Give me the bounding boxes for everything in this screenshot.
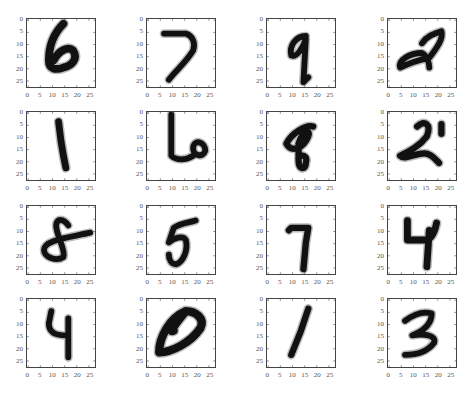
y-tick-label: 15 (129, 146, 143, 153)
x-tick-label: 25 (445, 185, 457, 192)
x-tick-label: 10 (46, 372, 58, 379)
y-tick-label: 20 (9, 253, 23, 260)
digit-image (266, 205, 336, 275)
digit-panel: 00551010151520202525 (266, 111, 366, 203)
x-tick-label: 5 (395, 372, 407, 379)
y-tick-label: 0 (129, 203, 143, 210)
x-tick-label: 10 (407, 372, 419, 379)
x-tick-label: 15 (420, 185, 432, 192)
y-tick-label: 25 (249, 78, 263, 85)
x-tick-label: 0 (261, 279, 273, 286)
x-tick-label: 15 (299, 185, 311, 192)
x-tick-label: 15 (299, 279, 311, 286)
x-tick-label: 25 (84, 92, 96, 99)
x-tick-label: 10 (407, 279, 419, 286)
y-tick-label: 25 (249, 171, 263, 178)
y-tick-label: 0 (9, 296, 23, 303)
y-tick-label: 5 (370, 308, 384, 315)
x-tick-label: 5 (395, 279, 407, 286)
x-tick-label: 20 (191, 92, 203, 99)
y-tick-label: 10 (370, 228, 384, 235)
x-tick-label: 10 (46, 185, 58, 192)
x-tick-label: 20 (311, 279, 323, 286)
y-tick-label: 20 (370, 253, 384, 260)
y-tick-label: 5 (9, 121, 23, 128)
x-tick-label: 5 (34, 279, 46, 286)
x-tick-label: 5 (154, 279, 166, 286)
x-tick-label: 15 (299, 372, 311, 379)
y-tick-label: 20 (249, 253, 263, 260)
y-tick-label: 25 (9, 358, 23, 365)
x-tick-label: 15 (179, 279, 191, 286)
x-tick-label: 20 (191, 185, 203, 192)
x-tick-label: 20 (311, 372, 323, 379)
x-tick-label: 25 (204, 185, 216, 192)
digit-panel: 00551010151520202525 (146, 298, 246, 390)
digit-image (387, 298, 457, 368)
y-tick-label: 20 (129, 66, 143, 73)
x-tick-label: 25 (324, 92, 336, 99)
x-tick-label: 10 (46, 279, 58, 286)
x-tick-label: 25 (445, 372, 457, 379)
digit-image (266, 298, 336, 368)
y-tick-label: 5 (129, 308, 143, 315)
y-tick-label: 10 (249, 134, 263, 141)
digit-image (387, 18, 457, 88)
y-tick-label: 10 (9, 41, 23, 48)
y-tick-label: 5 (370, 121, 384, 128)
digit-panel: 00551010151520202525 (146, 111, 246, 203)
x-tick-label: 20 (311, 185, 323, 192)
digit-image (26, 298, 96, 368)
x-tick-label: 20 (71, 372, 83, 379)
x-tick-label: 15 (420, 92, 432, 99)
digit-panel: 00551010151520202525 (146, 205, 246, 297)
digit-image (266, 111, 336, 181)
x-tick-label: 5 (395, 92, 407, 99)
y-tick-label: 0 (9, 109, 23, 116)
x-tick-label: 20 (432, 279, 444, 286)
y-tick-label: 10 (249, 321, 263, 328)
x-tick-label: 15 (59, 279, 71, 286)
y-tick-label: 10 (129, 228, 143, 235)
digit-panel: 00551010151520202525 (387, 205, 476, 297)
digit-image (146, 18, 216, 88)
y-tick-label: 15 (249, 146, 263, 153)
digit-image (387, 111, 457, 181)
x-tick-label: 0 (382, 279, 394, 286)
y-tick-label: 10 (9, 134, 23, 141)
x-tick-label: 5 (34, 372, 46, 379)
x-tick-label: 25 (84, 279, 96, 286)
x-tick-label: 25 (204, 279, 216, 286)
x-tick-label: 5 (154, 372, 166, 379)
digit-panel: 00551010151520202525 (26, 18, 126, 110)
x-tick-label: 15 (179, 185, 191, 192)
x-tick-label: 15 (420, 372, 432, 379)
y-tick-label: 15 (129, 240, 143, 247)
digit-panel: 00551010151520202525 (387, 111, 476, 203)
x-tick-label: 15 (179, 372, 191, 379)
y-tick-label: 5 (9, 308, 23, 315)
x-tick-label: 0 (261, 185, 273, 192)
y-tick-label: 10 (370, 321, 384, 328)
x-tick-label: 25 (204, 372, 216, 379)
y-tick-label: 5 (129, 215, 143, 222)
x-tick-label: 20 (71, 279, 83, 286)
y-tick-label: 10 (129, 321, 143, 328)
y-tick-label: 25 (9, 265, 23, 272)
y-tick-label: 25 (249, 265, 263, 272)
x-tick-label: 10 (286, 372, 298, 379)
x-tick-label: 20 (71, 185, 83, 192)
y-tick-label: 15 (9, 333, 23, 340)
x-tick-label: 5 (274, 372, 286, 379)
digit-image (146, 298, 216, 368)
x-tick-label: 20 (432, 185, 444, 192)
y-tick-label: 10 (370, 41, 384, 48)
x-tick-label: 0 (382, 185, 394, 192)
x-tick-label: 20 (71, 92, 83, 99)
y-tick-label: 20 (249, 66, 263, 73)
y-tick-label: 0 (129, 296, 143, 303)
x-tick-label: 10 (166, 185, 178, 192)
y-tick-label: 0 (370, 296, 384, 303)
x-tick-label: 15 (179, 92, 191, 99)
y-tick-label: 25 (370, 265, 384, 272)
